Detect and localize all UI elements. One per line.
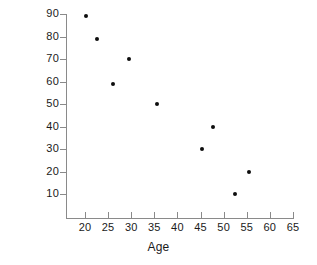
data-point xyxy=(95,37,99,41)
x-tick-20 xyxy=(85,212,86,218)
x-axis-line xyxy=(66,218,294,219)
x-tick-40 xyxy=(177,212,178,218)
data-point xyxy=(111,82,115,86)
x-tick-45 xyxy=(201,212,202,218)
data-point xyxy=(247,170,251,174)
y-tick-90 xyxy=(60,14,66,15)
x-tick-50 xyxy=(224,212,225,218)
x-axis-title: Age xyxy=(0,240,317,254)
x-tick-30 xyxy=(131,212,132,218)
x-tick-25 xyxy=(108,212,109,218)
y-tick-label-90: 90 xyxy=(19,8,59,19)
y-tick-20 xyxy=(60,172,66,173)
y-tick-80 xyxy=(60,37,66,38)
y-tick-label-30: 30 xyxy=(19,143,59,154)
y-tick-70 xyxy=(60,59,66,60)
plot-area: 102030405060708090 20253035404550556065 … xyxy=(0,0,317,265)
data-point xyxy=(233,192,237,196)
y-tick-40 xyxy=(60,127,66,128)
data-point xyxy=(84,14,88,18)
data-point xyxy=(200,147,204,151)
y-tick-label-70: 70 xyxy=(19,53,59,64)
scatter-plot-figure: 102030405060708090 20253035404550556065 … xyxy=(0,0,317,265)
x-tick-55 xyxy=(247,212,248,218)
data-point xyxy=(211,125,215,129)
y-tick-50 xyxy=(60,104,66,105)
y-axis-line xyxy=(66,14,67,219)
y-tick-30 xyxy=(60,149,66,150)
y-tick-60 xyxy=(60,82,66,83)
x-tick-35 xyxy=(154,212,155,218)
y-tick-label-20: 20 xyxy=(19,166,59,177)
y-tick-label-60: 60 xyxy=(19,76,59,87)
data-point xyxy=(127,57,131,61)
data-point xyxy=(155,102,159,106)
x-tick-65 xyxy=(293,212,294,218)
y-tick-label-10: 10 xyxy=(19,188,59,199)
y-tick-10 xyxy=(60,194,66,195)
x-tick-label-65: 65 xyxy=(278,222,308,233)
y-tick-label-50: 50 xyxy=(19,98,59,109)
x-tick-60 xyxy=(270,212,271,218)
y-tick-label-80: 80 xyxy=(19,31,59,42)
y-tick-label-40: 40 xyxy=(19,121,59,132)
